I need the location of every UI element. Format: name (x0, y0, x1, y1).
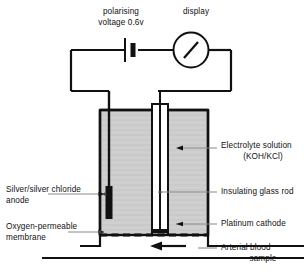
electrolyte-solution-line1: Electrolyte solution (221, 141, 304, 152)
gauge-icon (174, 33, 209, 68)
polarising-voltage-line2: voltage 0.6v (86, 18, 156, 29)
electrolyte-solution-line2: (KOH/KCl) (221, 152, 304, 163)
battery-icon (125, 38, 133, 62)
oxygen-permeable-membrane-label: Oxygen-permeable membrane (6, 222, 100, 243)
oxygen-permeable-membrane-line1: Oxygen-permeable (6, 222, 100, 233)
insulating-glass-rod-line1: Insulating glass rod (221, 187, 304, 198)
polarising-voltage-line1: polarising (86, 7, 156, 18)
anode-bar-icon (106, 186, 113, 219)
dot-glass-rod (158, 190, 161, 193)
silver-silver-chloride-anode-line2: anode (6, 196, 100, 207)
oxygen-permeable-membrane-line2: membrane (6, 233, 100, 244)
platinum-cathode-label: Platinum cathode (221, 219, 304, 230)
platinum-cathode-line1: Platinum cathode (221, 219, 304, 230)
arterial-blood-sample-line1: Arterial blood (221, 243, 304, 254)
flow-arrow-icon (150, 242, 186, 251)
electrolyte-solution-label: Electrolyte solution (KOH/KCl) (221, 141, 304, 162)
insulating-glass-rod-label: Insulating glass rod (221, 187, 304, 198)
display-label: display (172, 7, 220, 18)
arterial-blood-sample-label: Arterial blood sample (221, 243, 304, 264)
dot-anode (103, 192, 106, 195)
clark-electrode-diagram: polarising voltage 0.6v display Electrol… (0, 0, 304, 276)
silver-silver-chloride-anode-label: Silver/silver chloride anode (6, 185, 100, 206)
display-label-line1: display (172, 7, 220, 18)
arterial-blood-sample-line2: sample (221, 254, 304, 265)
cathode-tip-icon (151, 229, 169, 234)
polarising-voltage-label: polarising voltage 0.6v (86, 7, 156, 28)
silver-silver-chloride-anode-line1: Silver/silver chloride (6, 185, 100, 196)
